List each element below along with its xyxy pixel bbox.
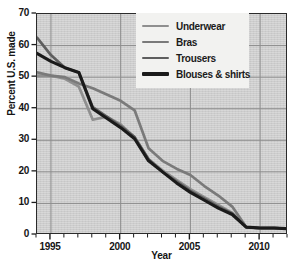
legend-swatch-blouses-shirts — [142, 72, 169, 75]
legend-swatch-bras — [142, 41, 169, 44]
legend-item-underwear[interactable]: Underwear — [142, 18, 243, 34]
legend-item-blouses-shirts[interactable]: Blouses & shirts — [142, 66, 243, 82]
legend-item-trousers[interactable]: Trousers — [142, 50, 243, 66]
legend-swatch-underwear — [142, 25, 169, 28]
x-axis-title: Year — [36, 250, 287, 261]
legend-swatch-trousers — [142, 57, 169, 60]
chart-figure: 0 10 20 30 40 50 60 70 1995 2000 2005 20… — [0, 0, 295, 262]
y-tick-label: 0 — [0, 229, 29, 239]
legend-label: Underwear — [176, 21, 225, 32]
legend-item-bras[interactable]: Bras — [142, 34, 243, 50]
y-tick-label: 10 — [0, 197, 29, 207]
y-tick-label: 20 — [0, 166, 29, 176]
series-line-underwear — [37, 76, 287, 229]
y-axis-title: Percent U.S. made — [6, 9, 17, 139]
legend-label: Bras — [176, 37, 197, 48]
legend-label: Trousers — [176, 53, 216, 64]
chart-legend: Underwear Bras Trousers Blouses & shirts — [136, 13, 249, 88]
legend-label: Blouses & shirts — [176, 69, 250, 80]
series-line-bras — [37, 72, 287, 228]
